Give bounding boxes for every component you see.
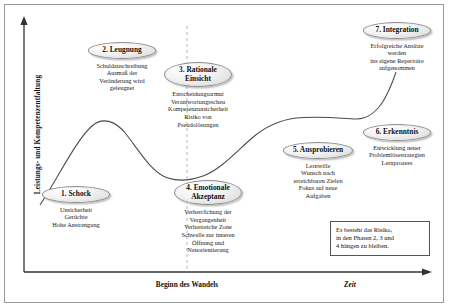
x-axis-origin-label: Beginn des Wandels [155,280,219,289]
phase-1-bubble-wrap: 1. Schock [24,182,128,203]
x-axis-arrow [422,268,432,275]
phase-3-description: Entscheidungsarmut Verantwortungsscheu K… [142,90,254,128]
phase-3-rationale-einsicht[interactable]: 3. Rationale Einsicht Entscheidungsarmut… [142,62,254,128]
x-axis-end-label: Zeit [330,280,370,289]
figure-root: Leistungs- und Kompetenzentfaltung Begin… [0,0,449,308]
phase-2-bubble-wrap: 2. Leugnung [66,38,178,59]
phase-7-title[interactable]: 7. Integration [363,22,431,39]
phase-4-title[interactable]: 4. Emotionale Akzeptanz [174,180,242,205]
y-axis-arrow [20,16,27,25]
phase-6-bubble-wrap: 6. Erkenntnis [348,120,446,141]
phase-6-description: Entwicklung neuer Problemlösestrategien … [348,144,446,167]
phase-1-schock[interactable]: 1. Schock Unsicherheit Gerüchte Hohe Ans… [24,182,128,228]
phase-4-description: Verherrlichung der Vergangenheit Verlust… [150,208,266,254]
phase-4-bubble-wrap: 4. Emotionale Akzeptanz [150,180,266,205]
phase-7-description: Erfolgreiche Ansätze werden ins eigene R… [348,42,446,72]
phase-4-emotionale-akzeptanz[interactable]: 4. Emotionale Akzeptanz Verherrlichung d… [150,180,266,254]
phase-1-description: Unsicherheit Gerüchte Hohe Anstrengung [24,206,128,229]
phase-5-description: Lernwille Wunsch nach erreichbaren Ziele… [264,162,372,200]
phase-7-integration[interactable]: 7. Integration Erfolgreiche Ansätze werd… [348,18,446,72]
phase-7-bubble-wrap: 7. Integration [348,18,446,39]
phase-6-erkenntnis[interactable]: 6. Erkenntnis Entwicklung neuer Probleml… [348,120,446,166]
phase-6-title[interactable]: 6. Erkenntnis [363,124,431,141]
phase-1-title[interactable]: 1. Schock [42,186,110,203]
phase-2-title[interactable]: 2. Leugnung [88,42,156,59]
phase-3-bubble-wrap: 3. Rationale Einsicht [142,62,254,87]
phase-3-title[interactable]: 3. Rationale Einsicht [164,62,232,87]
risk-note-box: Es besteht das Risiko, in den Phasen 2, … [330,221,430,256]
phase-5-title[interactable]: 5. Ausprobieren [283,142,353,159]
